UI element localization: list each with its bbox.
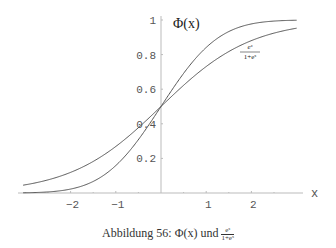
curves: [23, 20, 296, 193]
caption-frac-den: 1+eˣ: [221, 235, 234, 242]
plot-area: −2−1120.20.40.60.81 Φ(x) eˣ 1+eˣ x: [0, 0, 336, 248]
phi-label: Φ(x): [173, 16, 200, 32]
logistic-label-numerator: eˣ: [247, 43, 253, 51]
logistic-label-denominator: 1+eˣ: [244, 53, 258, 61]
logistic-label: eˣ 1+eˣ: [240, 43, 260, 61]
x-axis-label: x: [311, 187, 318, 201]
y-tick-label: 0.6: [136, 84, 156, 96]
caption-text: Abbildung 56: Φ(x) und: [102, 226, 221, 240]
axes: −2−1120.20.40.60.81: [18, 15, 303, 211]
y-tick-label: 0.2: [136, 153, 156, 165]
y-tick-label: 0.8: [136, 50, 156, 62]
x-tick-label: −2: [66, 199, 79, 211]
x-tick-label: −1: [111, 199, 125, 211]
caption-fraction: eˣ1+eˣ: [221, 227, 234, 242]
x-tick-label: 2: [250, 199, 257, 211]
figure-caption: Abbildung 56: Φ(x) und eˣ1+eˣ: [0, 226, 336, 242]
x-tick-label: 1: [205, 199, 212, 211]
phi-curve: [23, 20, 296, 193]
y-tick-label: 1: [149, 15, 156, 27]
